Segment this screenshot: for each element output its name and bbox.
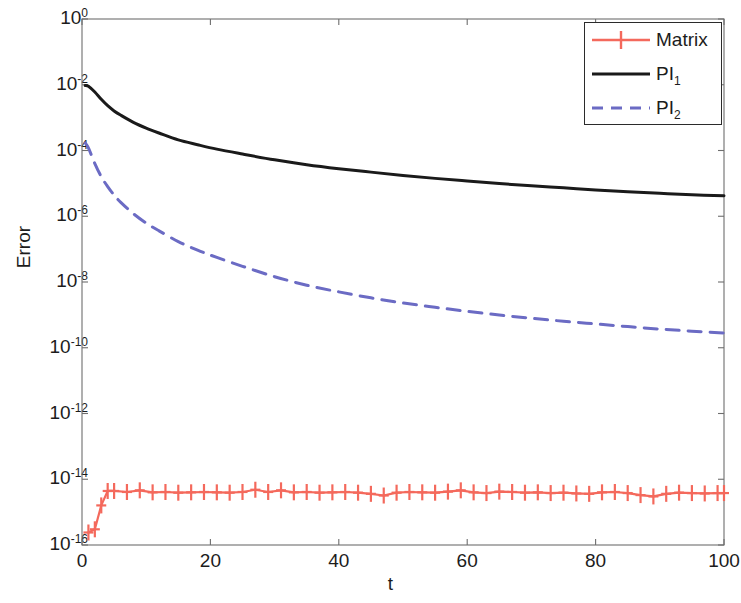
legend-box: Matrix PI1 PI2 [584, 22, 722, 125]
legend-sample-pi1 [590, 61, 652, 87]
legend-label-pi1: PI1 [656, 64, 681, 83]
series-line-pi-2 [85, 143, 724, 333]
legend-label-pi2-sub: 2 [674, 108, 681, 122]
legend-swatch-pi1-icon [590, 61, 652, 87]
legend-sample-pi2 [590, 95, 652, 121]
legend-item-matrix[interactable]: Matrix [585, 24, 723, 55]
legend-swatch-pi2-icon [590, 95, 652, 121]
legend-label-matrix: Matrix [656, 30, 708, 49]
legend-swatch-matrix-icon [590, 27, 652, 53]
legend-label-pi1-base: PI [656, 63, 674, 84]
legend-item-pi1[interactable]: PI1 [585, 58, 723, 89]
legend-item-pi2[interactable]: PI2 [585, 92, 723, 123]
figure-container: Error t 10010-210-410-610-810-1010-1210-… [0, 0, 741, 603]
legend-label-pi2: PI2 [656, 98, 681, 117]
legend-sample-matrix [590, 27, 652, 53]
legend-label-pi2-base: PI [656, 97, 674, 118]
legend-label-pi1-sub: 1 [674, 74, 681, 88]
